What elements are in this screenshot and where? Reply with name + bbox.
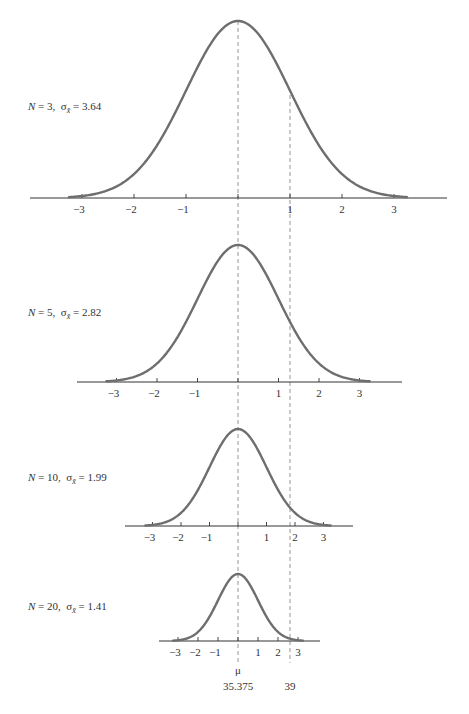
tick-label: 2: [339, 203, 345, 215]
tick-label: −1: [201, 531, 213, 543]
n-value: = 10,: [35, 471, 66, 483]
sigma-value: = 1.41: [76, 600, 107, 612]
tick-label: 3: [321, 531, 327, 543]
n-value: = 20,: [35, 600, 66, 612]
tick-label: 2: [316, 387, 322, 399]
tick-label: 3: [295, 646, 301, 658]
tick-label: 1: [276, 387, 282, 399]
panel-label-n3: N = 3, σx̄ = 3.64: [28, 100, 101, 115]
tick-label: 1: [264, 531, 270, 543]
tick-label: −3: [169, 646, 181, 658]
tick-label: −1: [189, 387, 201, 399]
sigma-value: = 1.99: [76, 471, 107, 483]
panel-label-n10: N = 10, σx̄ = 1.99: [28, 471, 107, 486]
tick-label: −3: [108, 387, 120, 399]
tick-label: −2: [172, 531, 184, 543]
tick-label: 1: [255, 646, 261, 658]
tick-label: 2: [292, 531, 298, 543]
tick-label: −3: [144, 531, 156, 543]
tick-label: 1: [287, 203, 293, 215]
reference-value-label: 39: [285, 680, 297, 692]
mu-value-label: 35.375: [223, 680, 254, 692]
tick-label: −1: [209, 646, 221, 658]
tick-label: −3: [73, 203, 85, 215]
sigma-value: = 2.82: [70, 306, 101, 318]
n-value: = 3,: [35, 100, 60, 112]
tick-label: 2: [275, 646, 281, 658]
tick-label: −2: [148, 387, 160, 399]
panel-label-n20: N = 20, σx̄ = 1.41: [28, 600, 107, 615]
n-value: = 5,: [35, 306, 60, 318]
tick-label: 3: [357, 387, 363, 399]
tick-label: −2: [189, 646, 201, 658]
panel-label-n5: N = 5, σx̄ = 2.82: [28, 306, 101, 321]
sampling-distribution-figure: −3−2−1123−3−2−1123−3−2−1123−3−2−1123μ35.…: [0, 0, 469, 714]
tick-label: −2: [125, 203, 137, 215]
mu-symbol: μ: [235, 664, 241, 676]
sigma-value: = 3.64: [70, 100, 101, 112]
tick-label: −1: [177, 203, 189, 215]
tick-label: 3: [391, 203, 397, 215]
